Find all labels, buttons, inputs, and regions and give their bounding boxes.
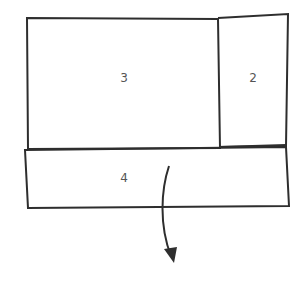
panel-4-label: 4 bbox=[120, 171, 128, 185]
panel-3-label: 3 bbox=[120, 71, 128, 85]
panel-4: 4 bbox=[25, 145, 289, 208]
panel-4-outline bbox=[25, 147, 289, 208]
panel-2: 2 bbox=[218, 14, 288, 147]
fold-diagram: 2 3 4 bbox=[0, 0, 295, 282]
fold-arrow-icon bbox=[163, 166, 178, 263]
panel-3: 3 bbox=[27, 18, 220, 149]
panel-2-label: 2 bbox=[249, 71, 257, 85]
arrowhead-icon bbox=[164, 247, 177, 263]
fold-arrow-shaft bbox=[163, 166, 172, 256]
